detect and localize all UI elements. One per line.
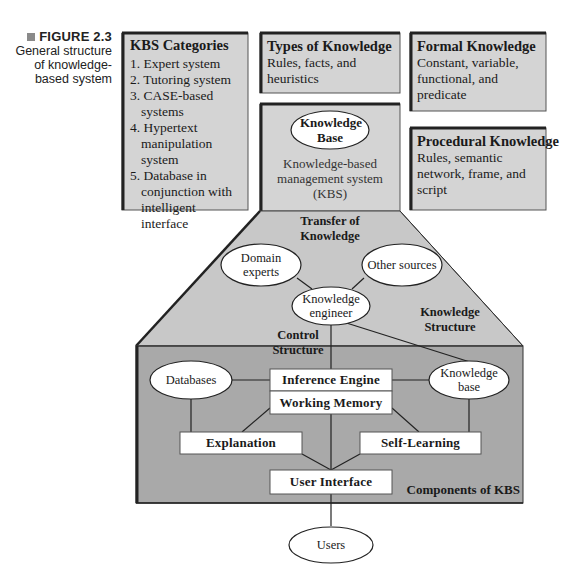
explanation-label: Explanation <box>180 432 302 454</box>
procedural-knowledge-body: Rules, semantic network, frame, and scri… <box>417 150 547 198</box>
users-label: Users <box>290 535 372 555</box>
self-learning-label: Self-Learning <box>360 432 481 454</box>
procedural-knowledge-title: Procedural Knowledge <box>417 133 547 150</box>
types-of-knowledge-body: Rules, facts, and heuristics <box>267 55 399 87</box>
inference-engine-label: Inference Engine <box>270 369 392 391</box>
list-item: 5. Database in conjunction with intellig… <box>130 168 246 232</box>
list-item: 3. CASE-based systems <box>130 88 246 120</box>
list-item: 4. Hypertext manipulation system <box>130 120 246 168</box>
user-interface-label: User Interface <box>270 470 392 494</box>
caption-line: based system <box>0 72 112 86</box>
kbs-categories-content: KBS Categories 1. Expert system 2. Tutor… <box>130 37 246 232</box>
formal-knowledge-title: Formal Knowledge <box>417 38 527 55</box>
databases-label: Databases <box>152 370 230 390</box>
kbs-categories-list: 1. Expert system 2. Tutoring system 3. C… <box>130 56 246 232</box>
figure-caption: FIGURE 2.3 General structure of knowledg… <box>0 30 112 86</box>
caption-line: of knowledge- <box>0 58 112 72</box>
caption-line: General structure <box>0 44 112 58</box>
square-bullet-icon <box>27 33 35 41</box>
types-of-knowledge-content: Types of Knowledge Rules, facts, and heu… <box>267 38 399 87</box>
formal-knowledge-content: Formal Knowledge Constant, variable, fun… <box>417 38 527 103</box>
list-item: 2. Tutoring system <box>130 72 246 88</box>
components-of-kbs-label: Components of KBS <box>404 482 520 497</box>
domain-experts-label: Domain experts <box>222 246 300 284</box>
procedural-knowledge-content: Procedural Knowledge Rules, semantic net… <box>417 133 547 198</box>
formal-knowledge-body: Constant, variable, functional, and pred… <box>417 55 527 103</box>
other-sources-label: Other sources <box>364 246 440 284</box>
knowledge-base-label: Knowledge base <box>432 362 506 398</box>
transfer-of-knowledge-label: Transfer of Knowledge <box>290 214 370 244</box>
types-of-knowledge-title: Types of Knowledge <box>267 38 399 55</box>
kbs-categories-title: KBS Categories <box>130 37 246 54</box>
figure-number: FIGURE 2.3 <box>0 30 112 44</box>
knowledge-structure-label: Knowledge Structure <box>410 305 490 335</box>
control-structure-label: Control Structure <box>265 328 331 358</box>
list-item: 1. Expert system <box>130 56 246 72</box>
knowledge-engineer-label: Knowledge engineer <box>294 288 368 324</box>
kbs-center-body: Knowledge-based management system (KBS) <box>268 156 392 201</box>
working-memory-label: Working Memory <box>270 391 392 414</box>
knowledge-base-oval-label: Knowledge Base <box>300 115 360 145</box>
